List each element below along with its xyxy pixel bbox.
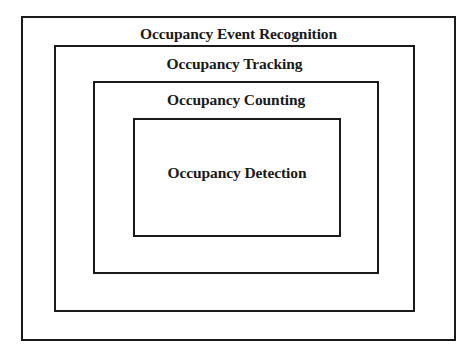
layer-detection-box: Occupancy Detection [133,118,341,237]
layer-detection-label: Occupancy Detection [135,164,339,182]
layer-counting-label: Occupancy Counting [95,91,377,109]
layer-tracking-label: Occupancy Tracking [56,55,413,73]
layer-event-recognition-label: Occupancy Event Recognition [23,25,454,43]
